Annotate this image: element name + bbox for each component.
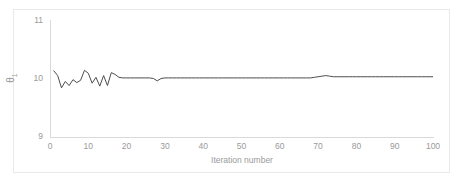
x-tick-label: 10 [84,141,93,152]
x-tick-label: 60 [275,141,284,152]
x-tick-label: 0 [48,141,53,152]
y-tick-label: 11 [6,15,48,25]
x-tick-label: 80 [352,141,361,152]
x-tick-label: 20 [122,141,131,152]
x-axis-title: Iteration number [50,155,434,166]
x-tick-label: 30 [160,141,169,152]
chart-container: θ1 11 10 9 0 10 20 30 40 50 60 70 80 90 … [0,0,465,183]
x-axis-ticks: 0 10 20 30 40 50 60 70 80 90 100 [50,141,434,153]
x-tick-label: 100 [426,141,440,152]
y-axis-ticks: 11 10 9 [0,0,48,183]
series-line-theta1 [50,20,433,137]
x-tick-label: 40 [198,141,207,152]
x-tick-label: 90 [390,141,399,152]
x-tick-label: 70 [313,141,322,152]
plot-area [50,20,433,137]
y-tick-label: 10 [6,73,48,83]
y-tick-label: 9 [6,131,48,141]
x-axis-line [50,137,434,138]
x-tick-label: 50 [237,141,246,152]
